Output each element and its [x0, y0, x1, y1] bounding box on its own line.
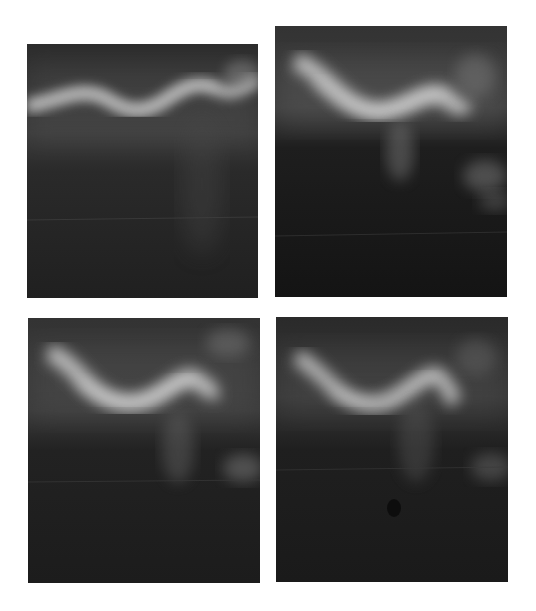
- xray-image-bottom-right: [276, 317, 508, 582]
- image-panel-bottom-right: [276, 317, 508, 582]
- image-panel-top-left: [27, 44, 258, 298]
- xray-image-bottom-left: [28, 318, 260, 583]
- xray-image-top-right: [275, 26, 507, 297]
- image-panel-top-right: [275, 26, 507, 297]
- xray-image-top-left: [27, 44, 258, 298]
- image-panel-bottom-left: [28, 318, 260, 583]
- dark-spot: [387, 499, 401, 517]
